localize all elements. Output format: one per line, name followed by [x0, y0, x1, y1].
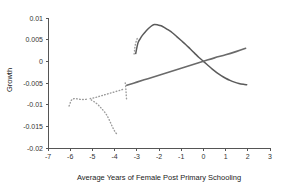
x-tick-label: -1 [178, 153, 184, 160]
y-tick-label: 0.005 [25, 36, 43, 43]
x-tick-label: -6 [67, 153, 73, 160]
x-tick-label: 0 [201, 153, 205, 160]
series-dotted-left-cluster [69, 99, 88, 106]
x-tick-label: -5 [89, 153, 95, 160]
y-tick-label: -0.02 [27, 145, 43, 152]
chart-container: 0.010.0050-0.005-0.01-0.015-0.02 -7-6-5-… [0, 0, 282, 186]
y-tick-label: -0.01 [27, 101, 43, 108]
y-tick-label: 0 [39, 58, 43, 65]
data-series-group [69, 24, 247, 134]
x-tick-label: -7 [45, 153, 51, 160]
growth-schooling-chart: 0.010.0050-0.005-0.01-0.015-0.02 -7-6-5-… [0, 0, 282, 186]
series-dotted-descending-branch [91, 100, 117, 134]
x-tick-label: -2 [156, 153, 162, 160]
x-tick-label: -4 [111, 153, 117, 160]
y-axis-title: Growth [5, 68, 14, 92]
series-hump-shaped-curve [136, 24, 247, 84]
y-tick-label: 0.01 [29, 15, 43, 22]
x-axis-ticks: -7-6-5-4-3-2-10123 [45, 148, 272, 160]
x-axis-title: Average Years of Female Post Primary Sch… [77, 173, 241, 182]
axes-group: 0.010.0050-0.005-0.01-0.015-0.02 -7-6-5-… [23, 15, 272, 161]
x-tick-label: -3 [134, 153, 140, 160]
y-axis-ticks: 0.010.0050-0.005-0.01-0.015-0.02 [23, 15, 48, 152]
x-tick-label: 3 [268, 153, 272, 160]
x-tick-label: 1 [224, 153, 228, 160]
y-tick-label: -0.015 [23, 123, 43, 130]
y-tick-label: -0.005 [23, 80, 43, 87]
series-dotted-upper-branch [90, 89, 124, 99]
x-tick-label: 2 [246, 153, 250, 160]
